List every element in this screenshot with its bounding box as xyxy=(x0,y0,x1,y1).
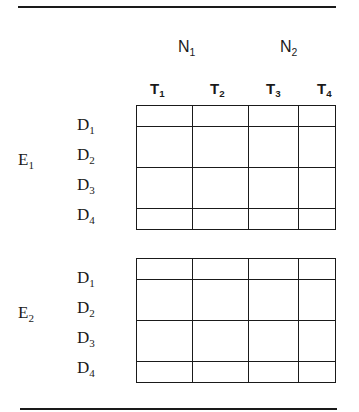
grid-cell xyxy=(192,209,249,230)
grid-cell xyxy=(137,168,192,209)
column-header-t4: T4 xyxy=(317,80,332,97)
grid-cell xyxy=(298,106,335,127)
grid-cell xyxy=(192,127,249,168)
grid-cell xyxy=(192,362,249,383)
block-label-e1: E1 xyxy=(18,150,34,170)
grid-cell xyxy=(192,321,249,362)
grid-cell xyxy=(298,209,335,230)
group-header-n1: N1 xyxy=(178,38,195,56)
grid-cell xyxy=(192,280,249,321)
grid-cell xyxy=(249,106,299,127)
grid-cell xyxy=(298,321,335,362)
grid-cell xyxy=(137,362,192,383)
row-label-e2-d1: D1 xyxy=(77,268,95,288)
grid-cell xyxy=(298,280,335,321)
bottom-rule xyxy=(20,408,337,410)
block-label-e2: E2 xyxy=(18,303,34,323)
grid-e1 xyxy=(136,105,336,230)
row-label-e1-d4: D4 xyxy=(77,205,95,225)
grid-cell xyxy=(192,106,249,127)
grid-cell xyxy=(249,127,299,168)
grid-cell xyxy=(137,106,192,127)
column-header-t1: T1 xyxy=(150,80,165,97)
grid-row xyxy=(137,127,335,168)
row-label-e2-d4: D4 xyxy=(77,358,95,378)
grid-cell xyxy=(249,321,299,362)
column-header-t2: T2 xyxy=(210,80,225,97)
row-label-e1-d2: D2 xyxy=(77,145,95,165)
grid-e2-table xyxy=(137,259,335,382)
column-header-t3: T3 xyxy=(266,80,281,97)
grid-cell xyxy=(192,259,249,280)
grid-cell xyxy=(137,209,192,230)
grid-cell xyxy=(249,362,299,383)
grid-cell xyxy=(137,259,192,280)
grid-row xyxy=(137,168,335,209)
grid-cell xyxy=(137,321,192,362)
grid-row xyxy=(137,362,335,383)
grid-cell xyxy=(137,127,192,168)
row-label-e2-d2: D2 xyxy=(77,298,95,318)
grid-e2 xyxy=(136,258,336,383)
grid-cell xyxy=(298,127,335,168)
grid-row xyxy=(137,321,335,362)
group-header-n2: N2 xyxy=(280,38,297,56)
row-label-e1-d1: D1 xyxy=(77,115,95,135)
grid-cell xyxy=(249,280,299,321)
grid-cell xyxy=(137,280,192,321)
grid-e1-table xyxy=(137,106,335,229)
grid-cell xyxy=(249,209,299,230)
top-rule xyxy=(18,6,336,8)
row-label-e2-d3: D3 xyxy=(77,328,95,348)
grid-cell xyxy=(298,168,335,209)
row-label-e1-d3: D3 xyxy=(77,175,95,195)
grid-cell xyxy=(298,362,335,383)
grid-row xyxy=(137,106,335,127)
grid-cell xyxy=(249,168,299,209)
grid-row xyxy=(137,209,335,230)
grid-cell xyxy=(249,259,299,280)
grid-cell xyxy=(298,259,335,280)
grid-row xyxy=(137,259,335,280)
grid-row xyxy=(137,280,335,321)
grid-cell xyxy=(192,168,249,209)
